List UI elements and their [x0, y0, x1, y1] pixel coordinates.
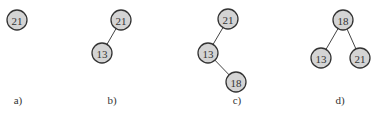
tree-node: 18 — [333, 10, 353, 30]
tree-rotation-diagram: 21a)2113b)211318c)181321d) — [0, 0, 377, 116]
node-value: 18 — [338, 15, 350, 27]
node-value: 21 — [355, 53, 366, 65]
node-value: 13 — [203, 48, 215, 60]
panel-label: d) — [335, 94, 345, 107]
node-value: 13 — [316, 53, 328, 65]
tree-node: 21 — [218, 9, 238, 29]
node-value: 18 — [231, 77, 243, 89]
tree-node: 13 — [311, 48, 331, 68]
tree-node: 18 — [226, 72, 246, 92]
panel-d: 181321d) — [311, 10, 370, 107]
panel-label: b) — [107, 94, 117, 107]
panel-c: 211318c) — [198, 9, 246, 107]
panel-label: a) — [14, 94, 23, 107]
tree-node: 21 — [350, 48, 370, 68]
tree-node: 13 — [92, 43, 112, 63]
tree-node: 21 — [7, 10, 27, 30]
node-value: 21 — [12, 15, 23, 27]
panel-a: 21a) — [7, 10, 27, 107]
node-value: 13 — [97, 48, 109, 60]
node-value: 21 — [223, 14, 234, 26]
tree-node: 13 — [198, 43, 218, 63]
node-value: 21 — [116, 15, 127, 27]
panel-b: 2113b) — [92, 10, 131, 107]
tree-node: 21 — [111, 10, 131, 30]
panel-label: c) — [233, 94, 242, 107]
